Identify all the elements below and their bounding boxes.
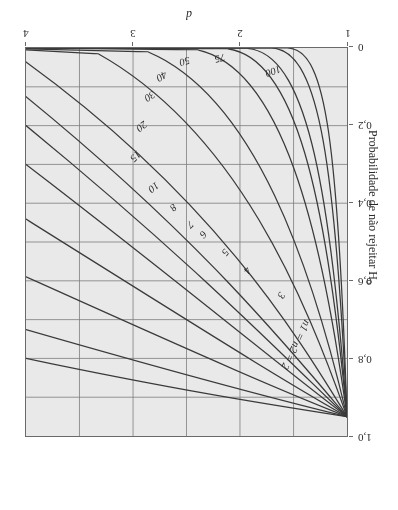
xtick-label-1: 1 — [336, 28, 360, 40]
ytick-mark-0.6 — [349, 280, 353, 281]
plot-svg — [26, 48, 347, 436]
x-axis-label: d — [186, 7, 192, 22]
ytick-mark-0.4 — [349, 202, 353, 203]
ytick-label-0: 0 — [358, 42, 388, 54]
ytick-label-0.8: 0,8 — [358, 354, 388, 366]
ytick-mark-0 — [349, 46, 353, 47]
ytick-label-1.0: 1,0 — [358, 432, 388, 444]
xtick-label-4: 4 — [14, 28, 38, 40]
xtick-mark-3 — [132, 42, 133, 46]
xtick-mark-4 — [25, 42, 26, 46]
ytick-mark-0.8 — [349, 358, 353, 359]
y-axis-label: Probabilidade de não rejeitar H0 — [364, 130, 380, 284]
ytick-mark-0.2 — [349, 124, 353, 125]
chart-page: n1 = n2 = 2 3 4 5 6 7 8 10 15 20 30 40 5… — [0, 0, 398, 510]
xtick-label-2: 2 — [228, 28, 252, 40]
xtick-mark-1 — [347, 42, 348, 46]
ytick-mark-1.0 — [349, 436, 353, 437]
y-axis-label-subscript: 0 — [364, 280, 373, 284]
oc-curve-figure: n1 = n2 = 2 3 4 5 6 7 8 10 15 20 30 40 5… — [0, 0, 398, 510]
xtick-mark-2 — [239, 42, 240, 46]
y-axis-label-text: Probabilidade de não rejeitar H — [366, 130, 380, 280]
plot-area: n1 = n2 = 2 3 4 5 6 7 8 10 15 20 30 40 5… — [25, 47, 348, 437]
xtick-label-3: 3 — [121, 28, 145, 40]
